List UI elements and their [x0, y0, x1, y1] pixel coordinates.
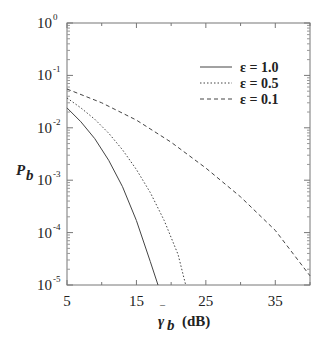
x-tick-label: 35: [268, 293, 283, 309]
svg-text:10: 10: [37, 277, 52, 293]
ber-chart: 10010-110-210-310-410-55152535 ε = 1.0ε …: [0, 0, 327, 341]
y-tick-label: 10-4: [37, 222, 61, 241]
series-line: [67, 108, 158, 285]
svg-text:γ: γ: [158, 313, 165, 329]
svg-text:10: 10: [37, 120, 52, 136]
svg-text:-4: -4: [53, 222, 61, 232]
x-tick-label: 5: [63, 293, 71, 309]
y-axis-title: P b: [16, 162, 34, 183]
svg-text:-5: -5: [53, 274, 61, 284]
legend: ε = 1.0ε = 0.5ε = 0.1: [200, 60, 278, 107]
svg-text:P: P: [16, 162, 26, 178]
svg-text:10: 10: [37, 67, 52, 83]
svg-text:-2: -2: [53, 117, 61, 127]
y-tick-label: 10-5: [37, 274, 61, 293]
x-tick-label: 25: [198, 293, 213, 309]
y-tick-label: 100: [37, 12, 58, 31]
svg-text:b: b: [167, 317, 175, 333]
svg-text:b: b: [26, 167, 34, 183]
plot-frame: 10010-110-210-310-410-55152535: [37, 12, 310, 309]
y-tick-label: 10-1: [37, 64, 61, 83]
legend-entry: ε = 0.1: [240, 92, 278, 107]
svg-text:-3: -3: [53, 169, 61, 179]
svg-text:¯: ¯: [159, 304, 166, 315]
legend-entry: ε = 0.5: [240, 76, 278, 91]
svg-text:(dB): (dB): [182, 313, 210, 330]
svg-text:-1: -1: [53, 64, 61, 74]
svg-text:10: 10: [37, 225, 52, 241]
svg-text:10: 10: [37, 172, 52, 188]
x-tick-label: 15: [129, 293, 144, 309]
legend-entry: ε = 1.0: [240, 60, 278, 75]
y-tick-label: 10-2: [37, 117, 61, 136]
curves: [67, 89, 310, 285]
svg-text:0: 0: [53, 12, 58, 22]
series-line: [67, 89, 310, 276]
y-tick-label: 10-3: [37, 169, 61, 188]
svg-text:10: 10: [37, 15, 52, 31]
